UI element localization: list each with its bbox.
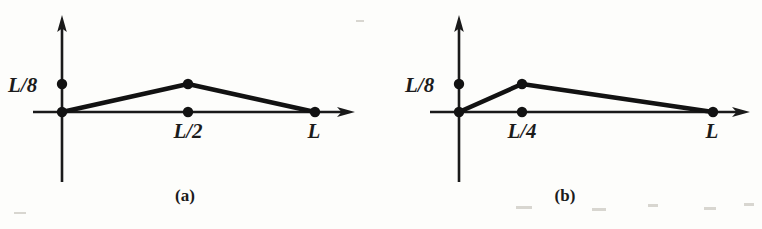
figure-svg: L/8 L/2 L (a) L/8 L/4 L (b)	[0, 0, 762, 229]
panel-a-midpoint-dot	[183, 107, 193, 117]
panel-a-origin-dot	[57, 107, 67, 117]
panel-b-peak-dot	[517, 79, 527, 89]
panel-b-quarterpoint-dot	[517, 107, 527, 117]
panel-b-x-tick-label-quarter: L/4	[506, 119, 536, 143]
panel-a-caption: (a)	[175, 186, 195, 205]
panel-a-peak-dot	[183, 79, 193, 89]
panel-b-endpoint-dot	[708, 107, 718, 117]
panel-a-x-tick-label-full: L	[307, 119, 321, 143]
panel-b-y-axis-label: L/8	[404, 73, 435, 97]
panel-b-x-tick-label-full: L	[705, 119, 719, 143]
figure-container: L/8 L/2 L (a) L/8 L/4 L (b)	[0, 0, 762, 229]
panel-a-x-tick-label-half: L/2	[172, 119, 203, 143]
panel-b-caption: (b)	[555, 186, 576, 205]
panel-a-y-axis-label: L/8	[7, 73, 38, 97]
figure-background	[0, 0, 762, 229]
panel-b-origin-dot	[454, 107, 464, 117]
panel-a-y-value-dot	[57, 79, 67, 89]
panel-b-y-value-dot	[454, 79, 464, 89]
panel-a-endpoint-dot	[310, 107, 320, 117]
